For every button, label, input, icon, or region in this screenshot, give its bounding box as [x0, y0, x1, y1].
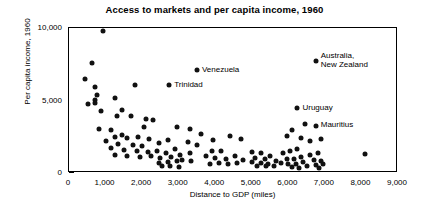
data-point: [302, 121, 307, 126]
data-point: [92, 84, 97, 89]
data-point: [125, 154, 130, 159]
data-point: [238, 136, 243, 141]
x-tick-label: 1,000: [85, 178, 125, 187]
data-point: [160, 163, 165, 168]
x-tick-label: 2,000: [121, 178, 161, 187]
data-point: [240, 157, 245, 162]
chart-title: Access to markets and per capita income,…: [0, 4, 429, 15]
point-annotation: Uruguay: [302, 103, 332, 113]
data-point: [207, 162, 212, 167]
data-point: [147, 136, 152, 141]
data-point: [304, 164, 309, 169]
point-annotation: Venezuela: [202, 65, 239, 75]
data-point: [209, 148, 214, 153]
data-point: [154, 148, 159, 153]
data-point: [227, 134, 232, 139]
data-point: [271, 163, 276, 168]
data-point: [156, 140, 161, 145]
data-point: [308, 139, 313, 144]
data-point: [284, 156, 289, 161]
data-point: [235, 160, 240, 165]
x-tick-label: 9,000: [377, 178, 417, 187]
x-tick-label: 3,000: [158, 178, 198, 187]
data-point: [136, 134, 141, 139]
data-point: [167, 83, 172, 88]
data-point: [120, 107, 125, 112]
data-point: [255, 163, 260, 168]
data-point: [317, 165, 322, 170]
data-point: [189, 158, 194, 163]
data-point: [173, 147, 178, 152]
data-point: [249, 149, 254, 154]
point-annotation: Trinidad: [174, 80, 203, 90]
data-point: [268, 153, 273, 158]
data-point: [315, 150, 320, 155]
data-point: [233, 154, 238, 159]
data-point: [90, 60, 95, 65]
data-point: [112, 95, 117, 100]
data-point: [216, 160, 221, 165]
y-tick-label: 5,000: [16, 95, 62, 104]
data-point: [103, 139, 108, 144]
x-axis-label: Distance to GDP (miles): [68, 190, 397, 199]
data-point: [279, 160, 284, 165]
data-point: [194, 142, 199, 147]
data-point: [180, 157, 185, 162]
data-point: [284, 134, 289, 139]
x-tick-label: 0: [48, 178, 88, 187]
x-tick-label: 7,000: [304, 178, 344, 187]
data-point: [198, 131, 203, 136]
data-point: [218, 149, 223, 154]
data-point: [143, 117, 148, 122]
data-point: [299, 136, 304, 141]
data-point: [163, 150, 168, 155]
data-point: [211, 137, 216, 142]
data-point: [141, 124, 146, 129]
x-tick-label: 6,000: [267, 178, 307, 187]
data-point: [194, 68, 199, 73]
data-point: [363, 152, 368, 157]
plot-area: [68, 27, 397, 172]
point-annotation: Australia, New Zealand: [321, 51, 368, 70]
data-point: [151, 118, 156, 123]
data-point: [295, 106, 300, 111]
data-point: [185, 139, 190, 144]
data-point: [109, 128, 114, 133]
data-point: [97, 126, 102, 131]
y-tick-mark: [69, 172, 74, 173]
data-point: [129, 114, 134, 119]
data-point: [167, 164, 172, 169]
data-point: [174, 159, 179, 164]
data-point: [204, 154, 209, 159]
x-tick-label: 8,000: [340, 178, 380, 187]
data-point: [109, 145, 114, 150]
data-point: [138, 155, 143, 160]
data-point: [112, 135, 117, 140]
y-tick-label: 10,000: [16, 23, 62, 32]
point-annotation: Mauritius: [321, 120, 353, 130]
y-axis-label: Per capita income, 1960: [23, 0, 32, 132]
data-point: [149, 153, 154, 158]
data-point: [226, 161, 231, 166]
data-point: [120, 133, 125, 138]
x-tick-label: 4,000: [194, 178, 234, 187]
data-point: [82, 76, 87, 81]
data-point: [130, 142, 135, 147]
data-point: [112, 152, 117, 157]
data-point: [295, 147, 300, 152]
y-tick-label: 0: [16, 168, 62, 177]
data-point: [249, 160, 254, 165]
data-point: [297, 165, 302, 170]
data-point: [121, 147, 126, 152]
data-point: [134, 149, 139, 154]
data-point: [114, 113, 119, 118]
data-point: [176, 165, 181, 170]
data-point: [187, 150, 192, 155]
data-point: [187, 126, 192, 131]
data-point: [289, 127, 294, 132]
data-point: [313, 58, 318, 63]
data-point: [289, 165, 294, 170]
data-point: [92, 100, 97, 105]
data-point: [319, 136, 324, 141]
data-point: [100, 28, 105, 33]
